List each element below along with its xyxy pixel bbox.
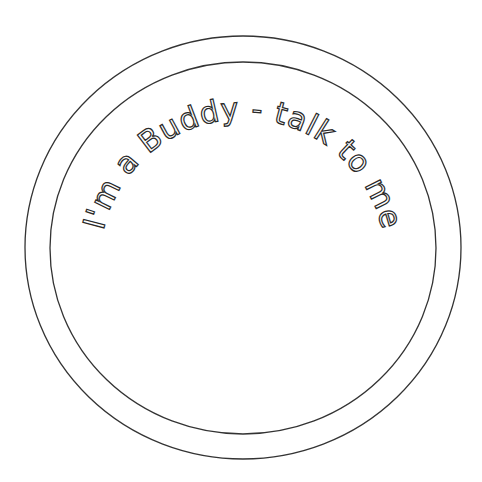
badge-arc-text: I'm a Buddy - talk to me — [76, 91, 409, 233]
badge-text: I'm a Buddy - talk to me — [76, 91, 409, 233]
buddy-badge: I'm a Buddy - talk to me — [0, 0, 482, 482]
